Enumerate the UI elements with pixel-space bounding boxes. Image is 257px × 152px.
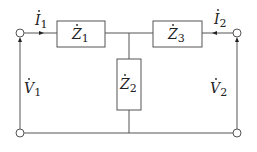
z2-phasor-dot xyxy=(124,74,126,76)
i2-arrowhead-icon xyxy=(212,31,217,35)
z1-phasor-dot xyxy=(76,24,78,26)
port1-bottom-terminal xyxy=(16,129,24,137)
v1-phasor-dot xyxy=(28,78,30,80)
t-network-diagram: Z1 Z3 Z2 I1 I2 V1 V2 xyxy=(0,0,257,152)
v2-label: V2 xyxy=(210,80,227,99)
i1-label: I1 xyxy=(34,12,48,31)
z3-phasor-dot xyxy=(172,24,174,26)
v1-label: V1 xyxy=(24,80,41,99)
port1-top-terminal xyxy=(16,29,24,37)
port2-top-terminal xyxy=(233,29,241,37)
i2-phasor-dot xyxy=(217,9,219,11)
i2-label: I2 xyxy=(213,11,227,30)
v2-arrowhead-icon xyxy=(235,37,239,42)
port2-bottom-terminal xyxy=(233,129,241,137)
i1-arrowhead-icon xyxy=(39,31,44,35)
v1-arrowhead-icon xyxy=(18,37,22,42)
i1-phasor-dot xyxy=(38,10,40,12)
v2-phasor-dot xyxy=(215,78,217,80)
